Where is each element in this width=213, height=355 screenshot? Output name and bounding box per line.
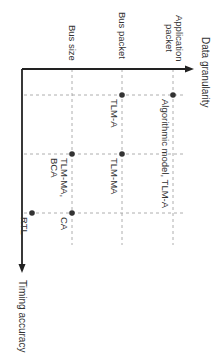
grid-lines [22,69,183,245]
x-axis-arrow-icon [19,264,26,273]
point-rtl [29,210,35,216]
point-tlm-a [119,92,125,98]
point-label-rtl: RTL [19,217,29,235]
y-axis-arrow-icon [185,66,194,73]
point-label-tlm-a: TLM-A [109,99,119,128]
x-axis-label: Timing accuracy [17,280,27,352]
point-label-ca: CA [59,217,69,230]
level-label-bus-packet: Bus packet [117,12,127,59]
point-label-tlm-ma: TLM-MA [109,158,119,194]
point-label-tlm-ma-bca: TLM-MA, BCA [49,158,69,197]
point-tlm-ma-bca [69,151,75,157]
y-axis-label: Data granularity [200,37,210,108]
point-ca [69,210,75,216]
level-label-application-packet: Application packet [164,15,184,61]
point-algorithmic-model [170,92,176,98]
abstraction-levels-diagram: Data granularity Timing accuracy Applica… [0,0,213,355]
level-label-bus-size: Bus size [67,25,77,61]
point-label-algorithmic-model: Algorithmic model, TLM-A [160,99,170,208]
point-tlm-ma [119,151,125,157]
